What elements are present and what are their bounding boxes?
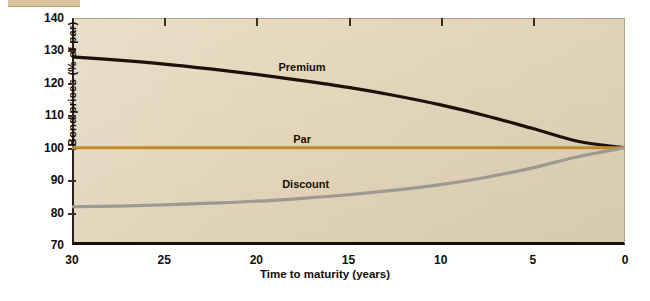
series-label-discount: Discount xyxy=(282,178,329,190)
series-line-discount xyxy=(72,148,625,207)
series-label-par: Par xyxy=(293,133,311,145)
series-line-premium xyxy=(72,57,625,148)
chart-figure: Bond prices (% of par) 70809010011012013… xyxy=(0,0,650,301)
series-label-premium: Premium xyxy=(278,61,325,73)
series-lines xyxy=(0,0,650,301)
